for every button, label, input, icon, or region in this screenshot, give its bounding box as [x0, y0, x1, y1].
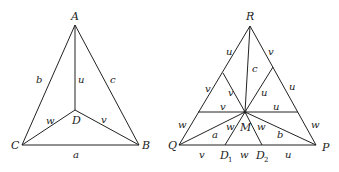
- label-right-inner-u: u: [261, 87, 267, 98]
- label-b: b: [36, 74, 42, 85]
- vertex-q-label: Q: [168, 139, 177, 152]
- label-b: b: [277, 129, 283, 140]
- label-qd1-v: v: [199, 149, 205, 160]
- edge-rm: [245, 26, 250, 112]
- vertex-a-label: A: [70, 10, 79, 23]
- vertex-b-label: B: [141, 139, 150, 152]
- label-a: a: [73, 149, 79, 160]
- triangle-pqr-figure: R Q P M D 1 D 2 u v w v u w c v v u u a …: [168, 10, 330, 164]
- label-left-inner-v: v: [228, 87, 234, 98]
- label-rp-w: w: [311, 119, 320, 130]
- vertex-d2-subscript: 2: [264, 156, 268, 164]
- label-rq-u: u: [226, 46, 232, 57]
- left-inner-line: [223, 73, 245, 112]
- vertex-c-label: C: [11, 139, 20, 152]
- right-inner-line: [245, 67, 273, 112]
- label-d2p-u: u: [285, 149, 291, 160]
- vertex-p-label: P: [321, 141, 330, 154]
- label-rq-v: v: [205, 83, 211, 94]
- label-md1-w: w: [226, 121, 235, 132]
- label-rp-u: u: [289, 81, 295, 92]
- label-c: c: [252, 63, 258, 74]
- vertex-d-label: D: [71, 114, 81, 127]
- label-w: w: [46, 115, 55, 126]
- label-rp-v: v: [268, 46, 274, 57]
- vertex-m-label: M: [239, 121, 252, 134]
- label-v: v: [101, 114, 107, 125]
- label-u: u: [78, 74, 84, 85]
- label-c: c: [110, 74, 116, 85]
- label-d1d2-w: w: [240, 149, 249, 160]
- label-a: a: [212, 129, 218, 140]
- triangle-abc-figure: A C B D b c u w v a: [11, 10, 150, 160]
- label-left-horiz-v: v: [220, 101, 226, 112]
- label-rq-w: w: [178, 119, 187, 130]
- diagram-canvas: A C B D b c u w v a R Q P M D 1 D 2 u v …: [0, 0, 339, 172]
- label-md2-w: w: [257, 121, 266, 132]
- vertex-r-label: R: [245, 10, 254, 23]
- label-right-horiz-u: u: [273, 101, 279, 112]
- vertex-d1-subscript: 1: [228, 156, 232, 164]
- point-m: [243, 110, 246, 113]
